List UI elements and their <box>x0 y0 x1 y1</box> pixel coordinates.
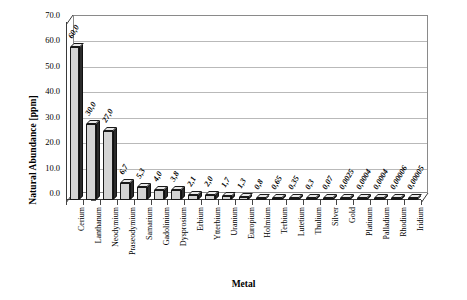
y-axis-tick-label: 50.0 <box>30 61 60 71</box>
x-axis-tick-mark <box>66 200 67 205</box>
x-axis-tick-mark <box>320 200 321 205</box>
bar-value-label: 60,0 <box>67 24 82 41</box>
bar-column: 30,0 <box>86 22 96 200</box>
bar-column: 5,3 <box>137 22 147 200</box>
bar-column: 0,00006 <box>391 22 401 200</box>
x-axis-tick-labels: CeriumLanthanumNeodymiumPraseodymiumSama… <box>66 207 421 273</box>
y-axis-tick-labels: 0.010.020.030.040.050.060.070.0 <box>30 15 60 193</box>
x-axis-category-label: Terbium <box>280 207 289 234</box>
x-axis-category-label: Lanthanum <box>94 207 103 243</box>
y-axis-tick-label: 60.0 <box>30 35 60 45</box>
bar-value-label: 3,8 <box>168 170 181 183</box>
y-axis-tick-label: 40.0 <box>30 86 60 96</box>
bar-column: 0,07 <box>323 22 333 200</box>
bar-column: 0,8 <box>256 22 266 200</box>
bar-column: 1,3 <box>239 22 249 200</box>
x-axis-tick-mark <box>235 200 236 205</box>
bar <box>86 124 96 200</box>
bar-value-label: 2,0 <box>202 175 215 188</box>
x-axis-category-label: Palladium <box>382 207 391 239</box>
bar-value-label: 27,0 <box>100 108 115 125</box>
x-axis-category-label: Iridium <box>416 207 425 231</box>
x-axis-tick-mark <box>353 200 354 205</box>
x-axis-tick-mark <box>184 200 185 205</box>
bar-value-label: 5,3 <box>134 166 147 179</box>
bar-value-label: 0,07 <box>320 174 335 191</box>
x-axis-category-label: Holmium <box>263 207 272 238</box>
bar-value-label: 6,7 <box>117 163 130 176</box>
x-axis-tick-mark <box>134 200 135 205</box>
bar-value-label: 4,0 <box>151 170 164 183</box>
x-axis-tick-mark <box>336 200 337 205</box>
x-axis-category-label: Dysprosium <box>179 207 188 246</box>
x-axis-category-label: Ytterbium <box>213 207 222 240</box>
bar-column: 2,1 <box>188 22 198 200</box>
x-axis-category-label: Neodymium <box>111 207 120 247</box>
x-axis-tick-mark <box>421 200 422 205</box>
x-axis-tick-mark <box>83 200 84 205</box>
x-axis-category-label: Rhodium <box>399 207 408 237</box>
bar-value-label: 0,0004 <box>371 167 390 191</box>
bar-value-label: 0,35 <box>286 174 301 191</box>
y-axis-tick-label: 20.0 <box>30 137 60 147</box>
bar-value-label: 0,8 <box>253 178 266 191</box>
x-axis-tick-mark <box>167 200 168 205</box>
bar-column: 27,0 <box>103 22 113 200</box>
x-axis-tick-mark <box>201 200 202 205</box>
x-axis-tick-mark <box>387 200 388 205</box>
x-axis-tick-marks <box>66 200 421 206</box>
x-axis-category-label: Platinum <box>365 207 374 236</box>
bar-value-label: 0,0004 <box>354 167 373 191</box>
x-axis-tick-mark <box>151 200 152 205</box>
x-axis-tick-mark <box>218 200 219 205</box>
bar-column: 0,0004 <box>374 22 384 200</box>
bar <box>137 187 147 200</box>
bar-column: 4,0 <box>154 22 164 200</box>
x-axis-tick-mark <box>100 200 101 205</box>
y-axis-tick-label: 0.0 <box>30 188 60 198</box>
bar <box>120 183 130 200</box>
bar-column: 1,7 <box>222 22 232 200</box>
x-axis-tick-mark <box>117 200 118 205</box>
bar <box>154 190 164 200</box>
bar-side-face <box>79 43 83 200</box>
x-axis-category-label: Cerium <box>77 207 86 231</box>
bar-value-label: 1,7 <box>219 176 232 189</box>
x-axis-tick-mark <box>303 200 304 205</box>
x-axis-category-label: Uranium <box>230 207 239 235</box>
bar-value-label: 0,65 <box>270 174 285 191</box>
bar <box>103 131 113 200</box>
bar-value-label: 0,0025 <box>337 167 356 191</box>
bar-side-face <box>113 127 117 200</box>
x-axis-tick-mark <box>286 200 287 205</box>
bar-value-label: 30,0 <box>84 100 99 117</box>
x-axis-category-label: Thulium <box>314 207 323 235</box>
bar-column: 0,65 <box>272 22 282 200</box>
x-axis-tick-mark <box>404 200 405 205</box>
bar <box>70 47 80 200</box>
x-axis-tick-mark <box>370 200 371 205</box>
plot-depth-edge-bottom-right <box>421 193 431 203</box>
bar-column: 0,0025 <box>340 22 350 200</box>
y-axis-tick-label: 70.0 <box>30 10 60 20</box>
bars-layer: 60,030,027,06,75,34,03,82,12,01,71,30,80… <box>66 22 421 200</box>
x-axis-tick-mark <box>252 200 253 205</box>
x-axis-category-label: Gold <box>348 207 357 223</box>
x-axis-tick-mark <box>269 200 270 205</box>
bar <box>171 190 181 200</box>
bar-column: 3,8 <box>171 22 181 200</box>
bar-column: 60,0 <box>70 22 80 200</box>
y-axis-tick-label: 30.0 <box>30 112 60 122</box>
bar-side-face <box>96 120 100 200</box>
y-axis-tick-label: 10.0 <box>30 163 60 173</box>
x-axis-category-label: Samarium <box>145 207 154 240</box>
bar-column: 0,3 <box>306 22 316 200</box>
x-axis-category-label: Erbium <box>196 207 205 231</box>
x-axis-title: Metal <box>66 279 421 289</box>
bar-column: 0,35 <box>289 22 299 200</box>
bar-column: 0,0004 <box>357 22 367 200</box>
bar-column: 6,7 <box>120 22 130 200</box>
bar-value-label: 1,3 <box>236 177 249 190</box>
x-axis-category-label: Silver <box>331 207 340 226</box>
bar-value-label: 0,3 <box>303 178 316 191</box>
